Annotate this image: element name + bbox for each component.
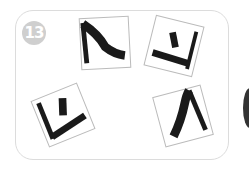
corner-stroke-icon	[80, 17, 131, 69]
clipped-glyph-edge	[243, 88, 249, 128]
puzzle-number-badge: 13	[22, 21, 46, 45]
puzzle-card-top-left[interactable]	[79, 16, 132, 71]
